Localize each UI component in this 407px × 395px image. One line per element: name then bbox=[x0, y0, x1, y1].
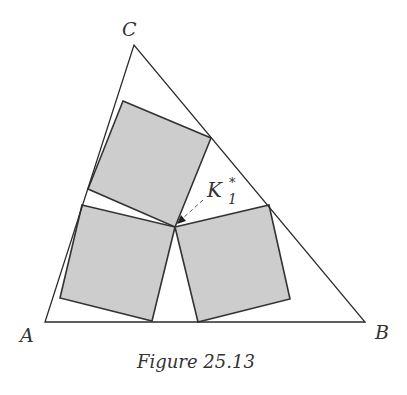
point-label-k: K bbox=[206, 178, 223, 202]
figure-caption: Figure 25.13 bbox=[136, 351, 255, 372]
point-label-k-superscript: * bbox=[229, 175, 236, 190]
vertex-label-c: C bbox=[122, 18, 137, 40]
vertex-label-a: A bbox=[18, 324, 34, 346]
right-square bbox=[175, 205, 290, 322]
top-square bbox=[88, 101, 211, 227]
vertex-label-b: B bbox=[374, 321, 389, 343]
point-label-k-subscript: 1 bbox=[228, 191, 237, 207]
figure-canvas: C A B K * 1 Figure 25.13 bbox=[0, 0, 407, 395]
